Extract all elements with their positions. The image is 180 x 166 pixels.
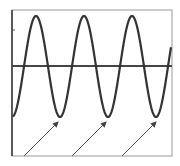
trough-arrow-3	[122, 122, 156, 156]
trough-arrow-2	[72, 122, 106, 156]
trough-arrow-1	[24, 122, 58, 156]
sine-wave-chart	[0, 0, 180, 166]
plot-frame	[12, 10, 172, 156]
trough-arrows	[24, 122, 156, 156]
